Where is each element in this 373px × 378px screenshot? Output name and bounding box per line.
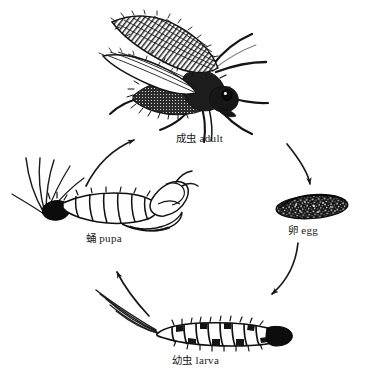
stage-label-egg-en: egg [301, 224, 318, 236]
stage-label-adult-en: adult [200, 132, 224, 144]
stage-label-adult: 成虫adult [176, 130, 223, 145]
stage-label-larva-en: larva [196, 354, 219, 366]
larva-head [266, 326, 292, 346]
stage-label-larva: 幼虫larva [172, 352, 219, 367]
stage-label-pupa-cn: 蛹 [86, 232, 96, 244]
stage-label-pupa: 蛹pupa [86, 230, 122, 245]
stage-label-egg: 卵egg [288, 222, 318, 237]
life-cycle-diagram: 成虫adult 卵egg 幼虫larva 蛹pupa [0, 0, 373, 378]
stage-label-adult-cn: 成虫 [176, 132, 197, 144]
stage-label-pupa-en: pupa [99, 232, 122, 244]
stage-label-egg-cn: 卵 [288, 224, 298, 236]
life-cycle-illustration [0, 0, 373, 378]
adult-eye [222, 89, 232, 100]
stage-label-larva-cn: 幼虫 [172, 354, 193, 366]
